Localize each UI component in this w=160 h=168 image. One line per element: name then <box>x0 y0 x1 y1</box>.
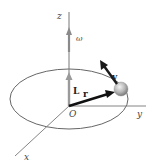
angular-momentum-arrowhead-icon <box>66 72 73 80</box>
omega-arrowhead-icon <box>66 27 72 35</box>
x-axis <box>15 106 69 156</box>
position-vector-label: r <box>83 89 88 99</box>
origin-label: O <box>69 109 77 119</box>
omega-label: ω <box>76 34 83 43</box>
y-axis-label: y <box>136 109 143 119</box>
angular-momentum-diagram: z ω L r v O y x <box>0 0 160 168</box>
x-axis-label: x <box>24 152 29 162</box>
angular-momentum-label: L <box>73 86 80 96</box>
position-vector-arrowhead-icon <box>105 90 115 98</box>
z-axis-label: z <box>56 11 62 21</box>
velocity-vector-label: v <box>111 72 118 82</box>
